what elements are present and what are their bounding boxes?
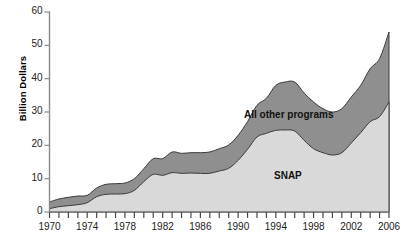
x-tick-label-1990: 1990 <box>218 221 258 232</box>
series-label-snap: SNAP <box>274 170 302 181</box>
y-tick-label-50: 50 <box>17 38 43 49</box>
y-tick-label-10: 10 <box>17 172 43 183</box>
x-tick-label-1978: 1978 <box>105 221 145 232</box>
x-tick-label-1986: 1986 <box>180 221 220 232</box>
y-tick-label-20: 20 <box>17 138 43 149</box>
x-tick-label-1974: 1974 <box>67 221 107 232</box>
x-tick-label-1970: 1970 <box>30 221 70 232</box>
y-tick-label-30: 30 <box>17 105 43 116</box>
x-tick-label-2002: 2002 <box>331 221 371 232</box>
area-series-group <box>50 32 390 212</box>
x-tick-label-1994: 1994 <box>256 221 296 232</box>
y-tick-label-40: 40 <box>17 72 43 83</box>
x-tick-label-2006: 2006 <box>369 221 405 232</box>
series-label-all-other-programs: All other programs <box>244 109 333 120</box>
x-tick-label-1982: 1982 <box>143 221 183 232</box>
y-tick-label-0: 0 <box>17 205 43 216</box>
y-tick-label-60: 60 <box>17 5 43 16</box>
x-tick-label-1998: 1998 <box>294 221 334 232</box>
